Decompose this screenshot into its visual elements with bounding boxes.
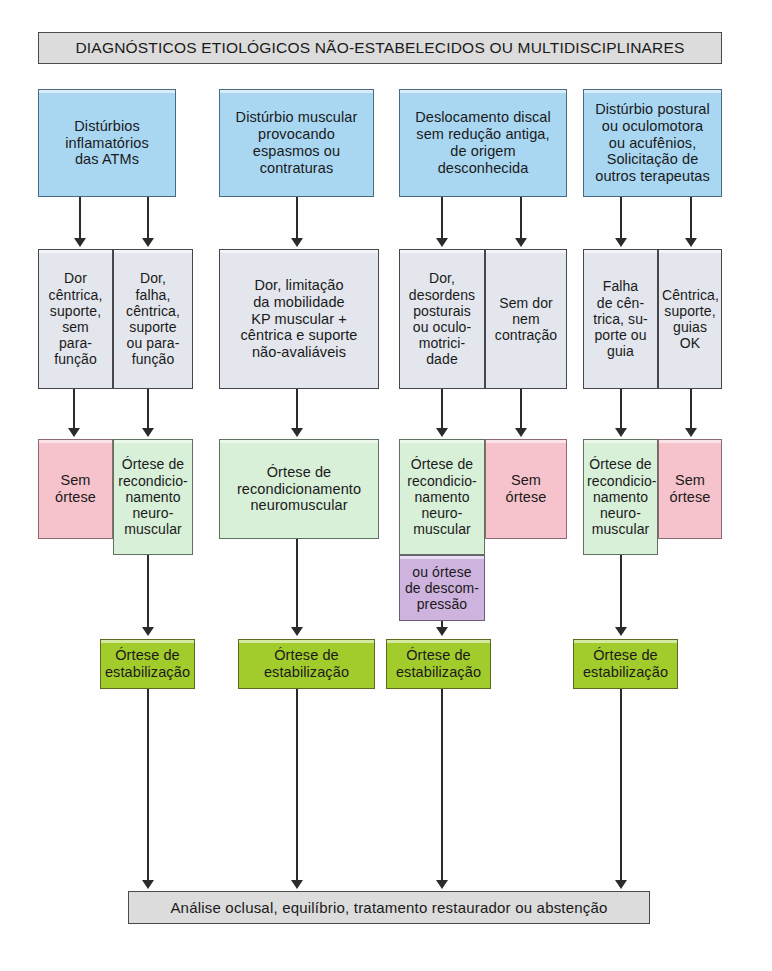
connector-s2-footer: [296, 689, 298, 883]
treatment-label-1-2: Órtese derecondicio-namentoneuro-muscula…: [117, 456, 189, 537]
diagnosis-label-1: Distúrbiosinflamatóriosdas ATMs: [42, 118, 172, 168]
footer-banner: Análise oclusal, equilíbrio, tratamento …: [128, 891, 650, 924]
stabilization-label-3: Órtese deestabilização: [390, 647, 487, 681]
connector-c1-f1: [79, 197, 81, 241]
treatment-box-3-1: Órtese derecondicio-namentoneuro-muscula…: [399, 439, 485, 555]
diagnosis-box-2: Distúrbio muscularprovocandoespasmos ouc…: [219, 89, 374, 197]
treatment-box-3-2: Semórtese: [485, 439, 567, 539]
treatment-box-1-1: Semórtese: [38, 439, 113, 539]
arrowhead-f1-2-t: [142, 428, 154, 437]
header-banner-label: DIAGNÓSTICOS ETIOLÓGICOS NÃO-ESTABELECID…: [42, 39, 718, 57]
finding-box-1-1: Dorcêntrica,suporte,sempara-função: [38, 249, 113, 389]
stabilization-label-4: Órtese deestabilização: [577, 647, 674, 681]
connector-f3-2-t: [520, 389, 522, 431]
connector-c3-f1: [441, 197, 443, 241]
arrowhead-c2-f1: [291, 238, 303, 247]
connector-f1-2-t: [147, 389, 149, 431]
connector-t4-s: [620, 555, 622, 630]
treatment-box-1-2: Órtese derecondicio-namentoneuro-muscula…: [113, 439, 193, 555]
diagnosis-box-4: Distúrbio posturalou oculomotoraou acufê…: [583, 89, 722, 197]
arrowhead-s1-footer: [142, 880, 154, 889]
arrowhead-c1-f1: [74, 238, 86, 247]
treatment-label-2-1: Órtese derecondicionamentoneuromuscular: [223, 464, 375, 514]
arrowhead-c1-f2: [142, 238, 154, 247]
footer-banner-label: Análise oclusal, equilíbrio, tratamento …: [132, 899, 646, 916]
connector-f4-1-t: [620, 389, 622, 431]
finding-label-2-1: Dor, limitaçãoda mobilidadeKP muscular +…: [223, 277, 375, 361]
treatment-box-4-2: Semórtese: [658, 439, 722, 539]
finding-label-4-2: Cêntrica,suporte,guias OK: [662, 287, 718, 352]
arrowhead-c3-f1: [436, 238, 448, 247]
diagnosis-label-3: Deslocamento discalsem redução antiga,de…: [403, 109, 563, 176]
diagnosis-label-4: Distúrbio posturalou oculomotoraou acufê…: [587, 101, 718, 185]
arrowhead-f3-2-t: [515, 428, 527, 437]
stabilization-box-1: Órtese deestabilização: [100, 639, 195, 689]
stabilization-box-2: Órtese deestabilização: [238, 639, 375, 689]
diagnosis-label-2: Distúrbio muscularprovocandoespasmos ouc…: [223, 109, 370, 176]
arrowhead-t4-s: [615, 627, 627, 636]
arrowhead-f2-1-t: [291, 428, 303, 437]
finding-label-3-2: Sem dornemcontração: [489, 295, 563, 344]
arrowhead-f4-2-t: [685, 428, 697, 437]
treatment-label-3-2: Semórtese: [489, 472, 563, 506]
stabilization-label-1: Órtese deestabilização: [104, 647, 191, 681]
treatment-extra-box-3: ou órtesede descom-pressão: [399, 555, 485, 621]
connector-f3-1-t: [441, 389, 443, 431]
connector-c2-f1: [296, 197, 298, 241]
arrowhead-t2-s: [291, 627, 303, 636]
connector-s4-footer: [620, 689, 622, 883]
treatment-extra-label-3: ou órtesede descom-pressão: [403, 564, 481, 613]
finding-label-4-1: Falhade cên-trica, su-porte ouguia: [587, 278, 654, 359]
stabilization-label-2: Órtese deestabilização: [242, 647, 371, 681]
arrowhead-s3-footer: [436, 880, 448, 889]
arrowhead-f4-1-t: [615, 428, 627, 437]
finding-box-2-1: Dor, limitaçãoda mobilidadeKP muscular +…: [219, 249, 379, 389]
connector-f1-1-t: [73, 389, 75, 431]
treatment-label-1-1: Semórtese: [42, 472, 109, 506]
stabilization-box-3: Órtese deestabilização: [386, 639, 491, 689]
arrowhead-s2-footer: [291, 880, 303, 889]
treatment-label-4-1: Órtese derecondicio-namentoneuro-muscula…: [587, 456, 654, 537]
finding-box-4-1: Falhade cên-trica, su-porte ouguia: [583, 249, 658, 389]
treatment-box-4-1: Órtese derecondicio-namentoneuro-muscula…: [583, 439, 658, 555]
connector-c4-f1: [620, 197, 622, 241]
arrowhead-c3-f2: [515, 238, 527, 247]
connector-c4-f2: [690, 197, 692, 241]
arrowhead-t1-s: [142, 627, 154, 636]
finding-label-3-1: Dor,desordensposturaisou oculo-motrici-d…: [403, 270, 481, 367]
connector-t1-s: [147, 555, 149, 630]
finding-box-1-2: Dor,falha,cêntrica,suporteou para-função: [113, 249, 193, 389]
diagnosis-box-3: Deslocamento discalsem redução antiga,de…: [399, 89, 567, 197]
finding-label-1-1: Dorcêntrica,suporte,sempara-função: [42, 270, 109, 367]
treatment-label-3-1: Órtese derecondicio-namentoneuro-muscula…: [403, 456, 481, 537]
arrowhead-s4-footer: [615, 880, 627, 889]
connector-f4-2-t: [690, 389, 692, 431]
treatment-label-4-2: Semórtese: [662, 472, 718, 506]
connector-c1-f2: [147, 197, 149, 241]
finding-box-3-2: Sem dornemcontração: [485, 249, 567, 389]
connector-s3-footer: [441, 689, 443, 883]
header-banner: DIAGNÓSTICOS ETIOLÓGICOS NÃO-ESTABELECID…: [38, 32, 722, 64]
finding-label-1-2: Dor,falha,cêntrica,suporteou para-função: [117, 270, 189, 367]
arrowhead-c4-f1: [615, 238, 627, 247]
arrowhead-t3-s: [436, 627, 448, 636]
treatment-box-2-1: Órtese derecondicionamentoneuromuscular: [219, 439, 379, 539]
arrowhead-f1-1-t: [68, 428, 80, 437]
flowchart-canvas: DIAGNÓSTICOS ETIOLÓGICOS NÃO-ESTABELECID…: [0, 0, 772, 971]
connector-f2-1-t: [296, 389, 298, 431]
diagnosis-box-1: Distúrbiosinflamatóriosdas ATMs: [38, 89, 176, 197]
connector-s1-footer: [147, 689, 149, 883]
stabilization-box-4: Órtese deestabilização: [573, 639, 678, 689]
connector-c3-f2: [520, 197, 522, 241]
connector-t2-s: [296, 539, 298, 630]
arrowhead-c4-f2: [685, 238, 697, 247]
finding-box-4-2: Cêntrica,suporte,guias OK: [658, 249, 722, 389]
finding-box-3-1: Dor,desordensposturaisou oculo-motrici-d…: [399, 249, 485, 389]
arrowhead-f3-1-t: [436, 428, 448, 437]
